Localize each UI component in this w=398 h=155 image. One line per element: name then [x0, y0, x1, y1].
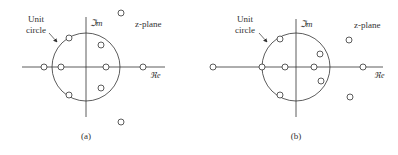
- zero-marker: [277, 36, 283, 42]
- zero-marker: [103, 64, 109, 70]
- zero-marker: [118, 119, 124, 125]
- imag-axis-label: ℑm: [300, 19, 313, 29]
- unit-circle-label-line1: Unit: [237, 14, 254, 24]
- unit-circle-label-line2: circle: [26, 25, 46, 35]
- zero-marker: [318, 78, 324, 84]
- zero-marker: [58, 64, 64, 70]
- real-axis-label: ℜe: [374, 71, 385, 80]
- panel-b: Unit circle ℑm ℜe z-plane (b): [210, 14, 385, 141]
- zero-marker: [210, 64, 216, 70]
- caption-a: (a): [81, 131, 91, 141]
- zero-marker: [118, 10, 124, 16]
- zero-marker: [66, 92, 72, 98]
- zero-marker: [98, 85, 104, 91]
- unit-circle-arrow: [49, 33, 57, 42]
- unit-circle-arrow: [259, 33, 267, 42]
- zero-marker: [41, 64, 47, 70]
- real-axis-label: ℜe: [150, 71, 161, 80]
- plane-label: z-plane: [135, 19, 161, 29]
- zero-marker: [311, 64, 317, 70]
- zero-marker: [66, 35, 72, 41]
- panel-a: Unit circle ℑm ℜe z-plane (a): [22, 10, 165, 141]
- zero-marker: [282, 64, 288, 70]
- pole-zero-figure: Unit circle ℑm ℜe z-plane (a) Unit circl…: [0, 0, 398, 155]
- zero-marker: [317, 51, 323, 57]
- unit-circle-label-line1: Unit: [28, 14, 45, 24]
- zero-marker: [140, 64, 146, 70]
- zero-marker: [360, 64, 366, 70]
- zeros-group-b: [210, 36, 366, 100]
- plane-label: z-plane: [354, 20, 380, 30]
- zero-marker: [277, 92, 283, 98]
- zero-marker: [259, 64, 265, 70]
- zero-marker: [98, 42, 104, 48]
- zero-marker: [346, 37, 352, 43]
- zero-marker: [347, 94, 353, 100]
- imag-axis-label: ℑm: [90, 18, 103, 28]
- unit-circle-label-line2: circle: [235, 25, 255, 35]
- caption-b: (b): [291, 131, 302, 141]
